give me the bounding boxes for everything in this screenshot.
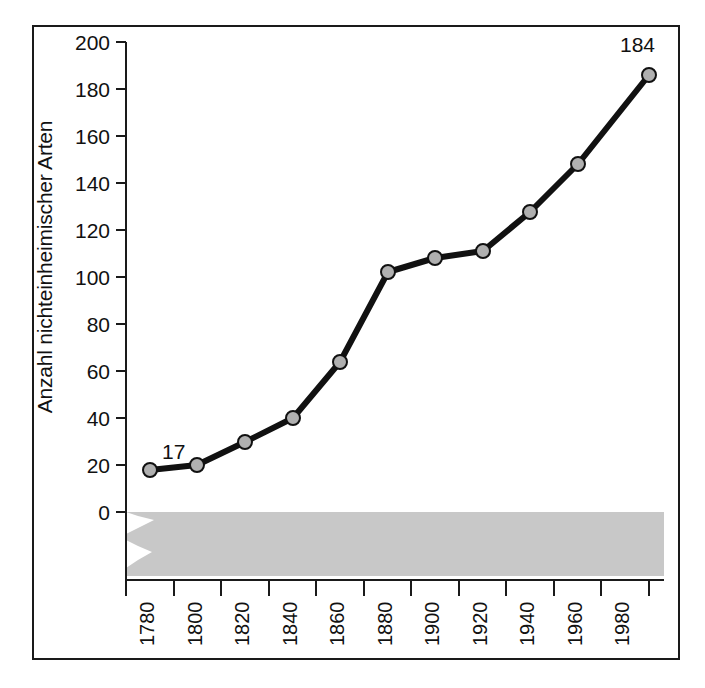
- data-point-markers: [143, 68, 656, 477]
- chart-figure: Anzahl nichteinheimischer Arten 200 180 …: [0, 0, 705, 688]
- x-tick-marks: [126, 580, 649, 596]
- chart-plot-area: [0, 0, 705, 688]
- data-line-series: [150, 75, 649, 470]
- y-tick-marks: [116, 42, 126, 512]
- band-shape: [126, 512, 664, 576]
